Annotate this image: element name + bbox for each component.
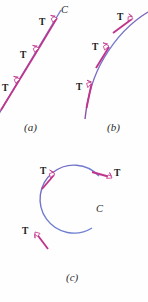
panel-b-graphics [85,12,148,119]
vector-shaft [87,84,92,108]
curve-c [40,165,99,233]
panel-a-graphics [0,10,61,117]
tangent-label-b-1: T [76,82,82,92]
tangent-label-a-1: T [2,83,8,93]
tangent-vector-c-2 [92,172,112,178]
tangent-label-b-2: T [92,42,98,52]
tangent-vector-c-3 [35,232,48,249]
arrowhead [51,15,57,22]
curve-label-a: C [61,4,68,15]
caption-b: (b) [107,121,120,133]
curve-b [85,12,148,119]
arrowhead [33,45,39,52]
tangent-label-a-3: T [39,17,45,27]
tangent-label-c-1: T [40,166,46,176]
tangent-label-c-3: T [22,226,28,236]
tangent-label-c-2: T [114,168,120,178]
figure-canvas [0,0,148,302]
tangent-label-a-2: T [20,50,26,60]
tangent-label-b-3: T [117,12,123,22]
caption-a: (a) [24,121,37,133]
tangent-vector-b-1 [87,80,92,108]
tangent-vector-a-1 [1,76,20,110]
cut-off-caption-fragment [30,292,76,297]
caption-c: (c) [66,271,78,283]
tangent-vector-figure: T T T C (a) T T T (b) T T T C (c) [0,0,148,302]
curve-label-c: C [96,203,103,214]
arrowhead [14,76,20,83]
